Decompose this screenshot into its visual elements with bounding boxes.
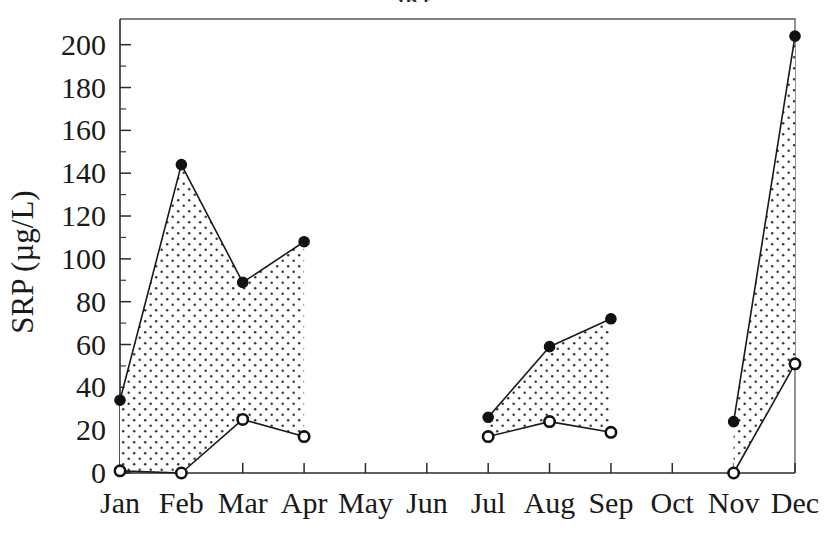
y-tick-label: 180 [61, 71, 106, 104]
x-tick-label: Oct [651, 486, 695, 519]
data-point-min-Nov [728, 468, 738, 478]
y-axis-tick-labels: 020406080100120140160180200 [61, 28, 106, 489]
y-axis-title: SRP (µg/L) [5, 190, 40, 333]
data-point-max-Dec [790, 31, 800, 41]
data-point-max-Apr [299, 237, 309, 247]
data-point-max-Nov [728, 416, 738, 426]
data-point-max-Jul [483, 412, 493, 422]
y-tick-label: 0 [91, 456, 106, 489]
y-tick-label: 200 [61, 28, 106, 61]
y-tick-label: 140 [61, 156, 106, 189]
data-point-min-Feb [176, 468, 186, 478]
range-band [120, 36, 795, 473]
data-point-min-Aug [544, 416, 554, 426]
data-point-max-Jan [115, 395, 125, 405]
y-tick-label: 40 [76, 370, 106, 403]
x-tick-label: Jul [471, 486, 506, 519]
y-tick-label: 100 [61, 242, 106, 275]
data-point-max-Aug [544, 341, 554, 351]
srp-range-chart: 020406080100120140160180200 JanFebMarApr… [0, 0, 826, 533]
y-tick-label: 160 [61, 113, 106, 146]
x-axis-ticks [120, 463, 795, 473]
data-point-max-Sep [606, 314, 616, 324]
x-tick-label: Mar [218, 486, 268, 519]
x-tick-label: Sep [588, 486, 633, 519]
x-tick-label: Aug [524, 486, 576, 519]
x-tick-label: Feb [159, 486, 204, 519]
clipped-title: SRP [0, 0, 826, 2]
data-point-max-Feb [176, 159, 186, 169]
y-axis-title-text: SRP (µg/L) [5, 190, 40, 333]
x-tick-label: Jan [100, 486, 140, 519]
figure-container: 020406080100120140160180200 JanFebMarApr… [0, 0, 826, 533]
x-tick-label: Dec [771, 486, 819, 519]
range-band-segment [120, 165, 304, 473]
y-tick-label: 120 [61, 199, 106, 232]
x-tick-label: Jun [406, 486, 448, 519]
data-point-min-Dec [790, 359, 800, 369]
x-tick-label: May [338, 486, 393, 519]
data-point-min-Jan [115, 466, 125, 476]
y-tick-label: 20 [76, 413, 106, 446]
y-tick-label: 80 [76, 285, 106, 318]
data-point-min-Mar [238, 414, 248, 424]
data-point-min-Jul [483, 431, 493, 441]
x-tick-label: Apr [281, 486, 328, 519]
range-band-segment [734, 36, 795, 473]
data-point-max-Mar [238, 277, 248, 287]
x-axis-tick-labels: JanFebMarAprMayJunJulAugSepOctNovDec [100, 486, 819, 519]
x-tick-label: Nov [708, 486, 760, 519]
data-point-min-Sep [606, 427, 616, 437]
data-point-min-Apr [299, 431, 309, 441]
y-tick-label: 60 [76, 328, 106, 361]
